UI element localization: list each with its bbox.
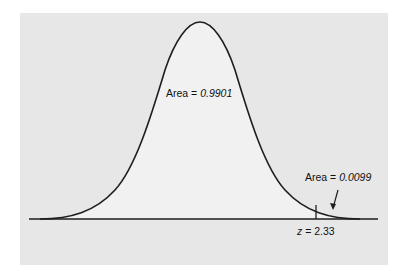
arrowhead-icon xyxy=(330,203,336,210)
main-area-label: Area = 0.9901 xyxy=(166,87,232,99)
tail-area-label: Area = 0.0099 xyxy=(305,171,371,183)
area-under-curve xyxy=(40,22,360,219)
z-value-label: z = 2.33 xyxy=(296,225,335,237)
normal-curve-diagram: Area = 0.9901 Area = 0.0099 z = 2.33 xyxy=(0,0,405,273)
